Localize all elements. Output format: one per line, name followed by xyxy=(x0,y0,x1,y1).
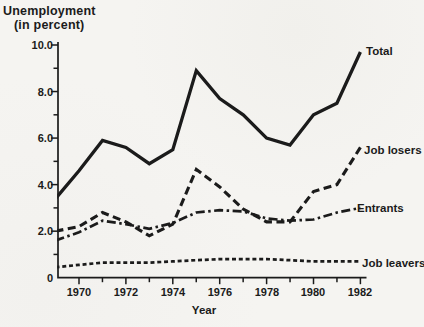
unemployment-line-chart: 10.0 8.0 6.0 4.0 2.0 0 1970 1972 1974 19… xyxy=(0,0,424,327)
x-tick-label-1982: 1982 xyxy=(348,286,372,298)
x-axis-title: Year xyxy=(192,304,217,316)
series-end-labels: Total Job losers Entrants Job leavers xyxy=(357,45,424,269)
series-line-job-leavers xyxy=(56,259,361,267)
x-tick-label-1974: 1974 xyxy=(161,286,186,298)
y-tick-label-8: 8.0 xyxy=(38,86,53,98)
x-tick-label-1980: 1980 xyxy=(301,286,325,298)
y-tick-label-2: 2.0 xyxy=(38,225,53,237)
y-tick-label-4: 4.0 xyxy=(38,179,53,191)
x-tick-label-1970: 1970 xyxy=(67,286,91,298)
series-label-job-leavers: Job leavers xyxy=(362,257,424,269)
y-axis-tick-labels: 10.0 8.0 6.0 4.0 2.0 0 xyxy=(32,39,53,284)
y-tick-label-6: 6.0 xyxy=(38,132,53,144)
series-line-job-losers xyxy=(56,147,361,235)
series-label-job-losers: Job losers xyxy=(364,144,422,156)
x-tick-label-1976: 1976 xyxy=(208,286,232,298)
series-label-total: Total xyxy=(366,45,393,57)
y-tick-label-0: 0 xyxy=(47,272,53,284)
x-axis-tick-labels: 1970 1972 1974 1976 1978 1980 1982 xyxy=(67,286,372,298)
x-tick-label-1978: 1978 xyxy=(255,286,279,298)
series-lines xyxy=(56,52,361,267)
series-label-entrants: Entrants xyxy=(357,202,404,214)
y-tick-label-10: 10.0 xyxy=(32,39,53,51)
x-tick-label-1972: 1972 xyxy=(114,286,138,298)
axes xyxy=(51,42,367,284)
scanned-chart-page: Unemployment (in percent) 10.0 8.0 6.0 4… xyxy=(0,0,424,327)
